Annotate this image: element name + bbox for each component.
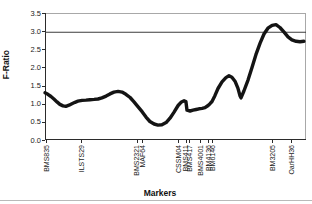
x-axis-title: Markers: [110, 188, 210, 198]
y-tick-label: 0.0: [21, 136, 41, 145]
y-tick-label: 3.5: [21, 9, 41, 18]
y-tick-label: 3.0: [21, 27, 41, 36]
x-marker-label: BM6146: [208, 145, 217, 171]
x-marker-label: MAF64: [138, 145, 147, 168]
y-axis-title: F-Ratio: [1, 50, 11, 79]
f-ratio-curve: [45, 25, 304, 126]
f-ratio-chart: 0.00.51.01.52.02.53.03.5 BMS835ILSTS29BM…: [0, 0, 312, 204]
y-tick-label: 1.0: [21, 99, 41, 108]
x-marker-label: ILSTS29: [77, 145, 86, 172]
y-tick-label: 2.5: [21, 45, 41, 54]
scan-border-line: [0, 200, 312, 201]
x-marker-label: OarHH36: [287, 145, 296, 175]
plot-area: [0, 0, 312, 204]
x-marker-label: BM3205: [268, 145, 277, 171]
y-tick-label: 2.0: [21, 63, 41, 72]
y-tick-label: 0.5: [21, 117, 41, 126]
y-tick-label: 1.5: [21, 81, 41, 90]
x-marker-label: BMS835: [42, 145, 51, 172]
x-marker-label: BMS417: [185, 145, 194, 172]
